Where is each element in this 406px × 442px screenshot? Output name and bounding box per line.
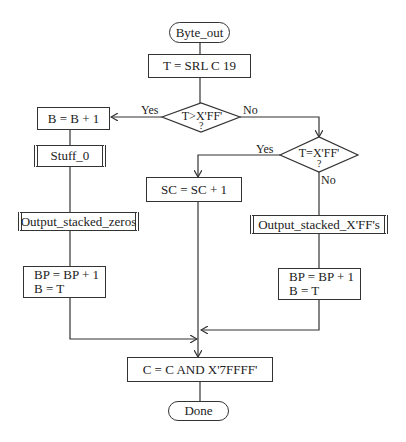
shift-process-box: T = SRL C 19: [148, 54, 251, 78]
increment-b-label: B = B + 1: [48, 111, 100, 127]
left-bp-line2: B = T: [34, 282, 64, 296]
decision1-no-label: No: [243, 103, 258, 118]
output-zeros-label: Output_stacked_zeros: [21, 214, 137, 230]
right-bp-line2: B = T: [289, 284, 319, 298]
start-terminal: Byte_out: [169, 22, 230, 43]
right-bp-update-box: BP = BP + 1 B = T: [278, 268, 361, 300]
left-bp-update-box: BP = BP + 1 B = T: [23, 266, 106, 298]
increment-sc-label: SC = SC + 1: [161, 182, 227, 198]
stuff-label: Stuff_0: [51, 148, 90, 164]
output-zeros-subroutine-box: Output_stacked_zeros: [18, 212, 139, 231]
output-ff-subroutine-box: Output_stacked_X'FF's: [250, 215, 388, 234]
decision2-no-label: No: [321, 173, 336, 188]
end-terminal: Done: [168, 401, 229, 421]
decision1-question-mark: ?: [199, 120, 203, 131]
decision2-yes-label: Yes: [256, 142, 273, 157]
mask-label: C = C AND X'7FFFF': [143, 362, 258, 378]
end-label: Done: [184, 403, 212, 419]
decision2-question-mark: ?: [317, 158, 321, 169]
decision1-yes-label: Yes: [141, 103, 158, 118]
mask-process-box: C = C AND X'7FFFF': [127, 357, 273, 382]
stuff-subroutine-box: Stuff_0: [34, 145, 106, 167]
increment-sc-box: SC = SC + 1: [146, 177, 242, 202]
shift-label: T = SRL C 19: [163, 58, 236, 74]
increment-b-box: B = B + 1: [37, 107, 110, 130]
output-ff-label: Output_stacked_X'FF's: [258, 217, 380, 233]
start-label: Byte_out: [176, 25, 224, 41]
right-bp-line1: BP = BP + 1: [289, 270, 354, 284]
left-bp-line1: BP = BP + 1: [34, 268, 99, 282]
